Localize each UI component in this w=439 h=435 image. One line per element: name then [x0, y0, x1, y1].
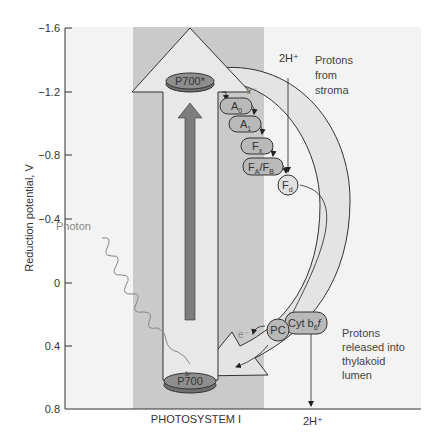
carrier-a1: A1 — [229, 116, 261, 132]
carrier-cyt-b6f: Cyt b6f — [285, 312, 327, 334]
electron-label-bottom: e⁻ — [238, 329, 249, 340]
svg-text:stroma: stroma — [315, 84, 350, 96]
carrier-a0: A0 — [220, 98, 252, 114]
electron-label-top: e⁻ — [246, 85, 257, 96]
tick-label: 0.4 — [45, 340, 60, 352]
p700-excited: P700* — [166, 73, 214, 92]
diagram-canvas: −1.6 −1.2 −0.8 −0.4 0 0.4 0.8 Reduction … — [0, 0, 439, 435]
svg-text:from: from — [315, 69, 337, 81]
tick-label: −1.6 — [38, 22, 60, 34]
carrier-fx: Fx — [241, 138, 273, 154]
p700-ground-label: P700 — [177, 375, 203, 387]
tick-label: −1.2 — [38, 86, 60, 98]
y-axis-title: Reduction potential, V — [23, 164, 35, 272]
carrier-pc: PC — [267, 319, 289, 341]
p700-ground: P700 — [164, 373, 216, 393]
p700-excited-label: P700* — [175, 75, 206, 87]
carrier-fa-fb: FA/FB — [243, 158, 283, 175]
svg-text:lumen: lumen — [342, 369, 372, 381]
tick-label: 0 — [54, 277, 60, 289]
tick-label: −0.8 — [38, 149, 60, 161]
carrier-fd: Fd — [278, 175, 298, 195]
svg-text:Protons: Protons — [315, 54, 353, 66]
proton-bottom-label: 2H⁺ — [303, 415, 323, 427]
y-tick-labels: −1.6 −1.2 −0.8 −0.4 0 0.4 0.8 — [38, 22, 60, 415]
proton-top-label: 2H⁺ — [279, 52, 299, 64]
svg-text:thylakoid: thylakoid — [342, 355, 385, 367]
photosystem-label: PHOTOSYSTEM I — [151, 413, 241, 425]
tick-label: 0.8 — [45, 403, 60, 415]
svg-text:PC: PC — [270, 324, 285, 336]
svg-text:released into: released into — [342, 341, 405, 353]
svg-text:Protons: Protons — [342, 327, 380, 339]
photon-label: Photon — [56, 220, 91, 232]
